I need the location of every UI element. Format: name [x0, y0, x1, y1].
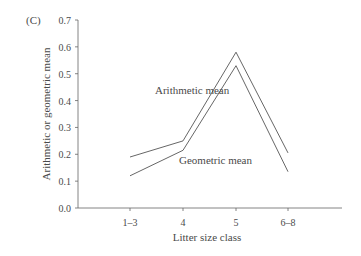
series-label-arithmetic: Arithmetic mean: [155, 84, 230, 96]
y-tick-label: 0.2: [59, 149, 72, 160]
y-tick-label: 0.5: [59, 69, 72, 80]
y-tick-label: 0.6: [59, 42, 72, 53]
x-tick-label: 1–3: [123, 217, 138, 228]
x-tick-label: 4: [181, 217, 186, 228]
y-tick-label: 0.1: [59, 176, 72, 187]
y-tick-label: 0.4: [59, 96, 72, 107]
x-tick-label: 6–8: [281, 217, 296, 228]
x-axis-label: Litter size class: [173, 231, 241, 243]
y-tick-label: 0.0: [59, 203, 72, 214]
y-tick-label: 0.3: [59, 122, 72, 133]
chart: (C) 0.00.10.20.30.40.50.60.7 1–3456–8 Ar…: [0, 0, 361, 256]
x-tick-label: 5: [234, 217, 239, 228]
y-axis-label: Arithmetic or geometric mean: [40, 47, 52, 180]
arithmetic-mean-line: [130, 52, 288, 157]
y-axis: 0.00.10.20.30.40.50.60.7: [59, 15, 79, 214]
series-label-geometric: Geometric mean: [179, 154, 252, 166]
panel-label: (C): [26, 14, 41, 27]
x-axis: 1–3456–8: [78, 208, 342, 228]
y-tick-label: 0.7: [59, 15, 72, 26]
